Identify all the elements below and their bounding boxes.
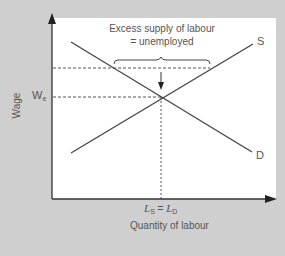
- x-axis-arrow-icon: [265, 195, 277, 203]
- x-axis-label: Quantity of labour: [130, 221, 209, 231]
- wage-subscript: e: [42, 95, 46, 102]
- wage-symbol: W: [32, 89, 42, 101]
- y-axis-arrow-icon: [48, 13, 56, 24]
- annotation-line-1: Excess supply of labour: [100, 23, 224, 35]
- excess-supply-brace: [114, 57, 210, 64]
- y-axis-label: Wage: [11, 93, 22, 119]
- annotation-line-2: = unemployed: [100, 36, 224, 48]
- demand-label: D: [256, 150, 264, 161]
- equals-sign: =: [155, 203, 166, 214]
- equilibrium-wage-label: We: [32, 90, 46, 102]
- down-arrow-icon: [158, 82, 164, 90]
- equilibrium-quantity-label: LS = LD: [144, 203, 177, 215]
- ld-subscript: D: [172, 208, 177, 215]
- supply-label: S: [257, 36, 264, 47]
